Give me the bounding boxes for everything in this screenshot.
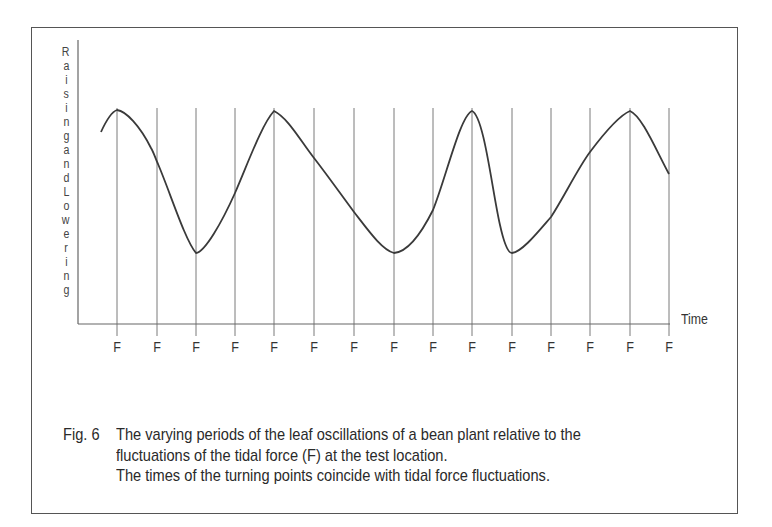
y-label-letter: g [63, 283, 69, 297]
x-tick-label: F [626, 339, 634, 355]
x-tick-label: F [310, 339, 318, 355]
oscillation-curve [101, 110, 669, 253]
figure-caption: Fig. 6 The varying periods of the leaf o… [63, 425, 743, 487]
caption-line-1: Fig. 6 The varying periods of the leaf o… [63, 425, 743, 446]
y-label-letter: n [63, 269, 69, 283]
x-axis-label: Time [681, 311, 708, 327]
caption-text-1: The varying periods of the leaf oscillat… [116, 425, 581, 446]
y-label-letter: s [63, 87, 68, 101]
y-label-letter: n [63, 157, 69, 171]
y-label-letter: L [63, 185, 69, 199]
tidal-force-grid-lines [117, 108, 669, 336]
x-tick-label: F [390, 339, 398, 355]
y-label-letter: a [63, 143, 69, 157]
x-tick-label: F [586, 339, 594, 355]
caption-text-3: The times of the turning points coincide… [116, 466, 550, 487]
figure-number: Fig. 6 [63, 425, 109, 446]
y-label-letter: i [65, 255, 67, 269]
x-tick-label: F [429, 339, 437, 355]
x-tick-label: F [468, 339, 476, 355]
y-label-letter: g [63, 129, 69, 143]
x-tick-label: F [508, 339, 516, 355]
caption-text-2: fluctuations of the tidal force (F) at t… [116, 446, 448, 467]
y-label-letter: r [64, 241, 68, 255]
y-label-letter: i [65, 101, 67, 115]
x-tick-label: F [113, 339, 121, 355]
y-label-letter: i [65, 73, 67, 87]
y-label-letter: e [63, 227, 69, 241]
x-tick-label: F [350, 339, 358, 355]
y-label-letter: w [62, 213, 70, 227]
caption-line-2: fluctuations of the tidal force (F) at t… [63, 446, 743, 467]
y-axis-label: RaisingandLowering [58, 45, 74, 297]
x-tick-label: F [153, 339, 161, 355]
caption-line-3: The times of the turning points coincide… [63, 466, 743, 487]
y-label-letter: o [63, 199, 69, 213]
y-label-letter: R [62, 45, 70, 59]
x-tick-label: F [270, 339, 278, 355]
x-tick-label: F [231, 339, 239, 355]
y-label-letter: d [63, 171, 69, 185]
y-label-letter: a [63, 59, 69, 73]
x-tick-label: F [665, 339, 673, 355]
x-tick-label: F [547, 339, 555, 355]
y-label-letter: n [63, 115, 69, 129]
x-tick-label: F [192, 339, 200, 355]
